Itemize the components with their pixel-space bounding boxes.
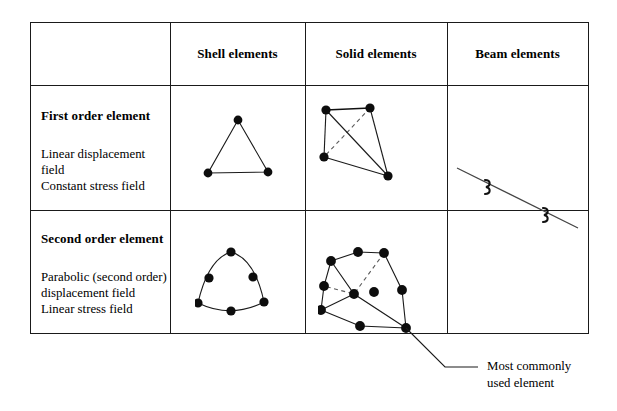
annotation-leader-line xyxy=(400,325,500,375)
table-border-left xyxy=(30,22,31,334)
column-header-solid: Solid elements xyxy=(305,46,447,63)
row-desc-second-order-line-1: Parabolic (second order) xyxy=(41,269,181,285)
row-desc-second-order-line-3: Linear stress field xyxy=(41,301,181,317)
triangle-nodes xyxy=(204,116,273,178)
table-border-top xyxy=(30,22,588,23)
row-desc-first-order-line-3: Constant stress field xyxy=(41,178,171,194)
annotation-text-line-2: used element xyxy=(487,375,607,392)
diagram-shell-first-order xyxy=(195,110,285,185)
table-column-divider-3 xyxy=(447,22,448,334)
row-desc-first-order-line-1: Linear displacement xyxy=(41,146,171,162)
quad-tetrahedron-nodes xyxy=(318,247,411,333)
row-header-second-order: Second order element xyxy=(41,231,176,248)
row-header-first-order: First order element xyxy=(41,108,169,125)
diagram-solid-first-order xyxy=(305,95,410,190)
table-border-right xyxy=(588,22,589,334)
diagram-shell-second-order xyxy=(195,245,285,325)
diagram-beam-element xyxy=(450,150,585,240)
beam-cross-section-marker-2 xyxy=(543,208,548,222)
table-divider-header xyxy=(30,85,588,86)
column-header-beam: Beam elements xyxy=(447,46,588,63)
column-header-shell: Shell elements xyxy=(170,46,305,63)
row-desc-second-order-line-2: displacement field xyxy=(41,285,181,301)
row-desc-first-order-line-2: field xyxy=(41,162,171,178)
beam-axis xyxy=(457,168,578,228)
table-border-bottom xyxy=(30,333,588,334)
tetrahedron-edges xyxy=(324,108,388,176)
annotation-text-line-1: Most commonly xyxy=(487,358,607,375)
figure-canvas: Shell elements Solid elements Beam eleme… xyxy=(0,0,617,411)
triangle-edges xyxy=(208,120,268,173)
